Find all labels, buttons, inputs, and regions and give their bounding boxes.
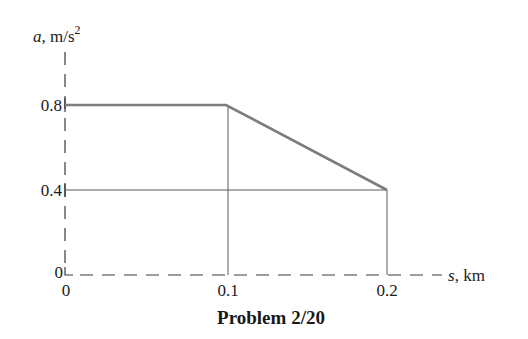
y-axis-label: a, m/s2 xyxy=(33,23,81,46)
chart-canvas: a, m/s2 0.8 0.4 0 0 0.1 0.2 s, km Proble… xyxy=(0,0,528,339)
y-axis-variable: a xyxy=(33,27,42,46)
y-tick-label: 0 xyxy=(55,263,64,282)
y-tick-label: 0.8 xyxy=(41,96,62,115)
x-tick-label: 0 xyxy=(62,281,71,300)
y-tick-label: 0.4 xyxy=(41,181,63,200)
x-axis-label: s, km xyxy=(448,266,485,285)
x-axis-unit: , km xyxy=(455,266,485,285)
figure-caption: Problem 2/20 xyxy=(217,307,325,328)
origin-corner xyxy=(65,267,73,275)
x-tick-label: 0.2 xyxy=(376,281,397,300)
y-axis-unit: , m/s xyxy=(42,27,75,46)
x-tick-label: 0.1 xyxy=(217,281,238,300)
chart-figure: a, m/s2 0.8 0.4 0 0 0.1 0.2 s, km Proble… xyxy=(0,0,528,339)
acceleration-curve xyxy=(65,105,387,190)
y-axis-exponent: 2 xyxy=(75,23,81,37)
